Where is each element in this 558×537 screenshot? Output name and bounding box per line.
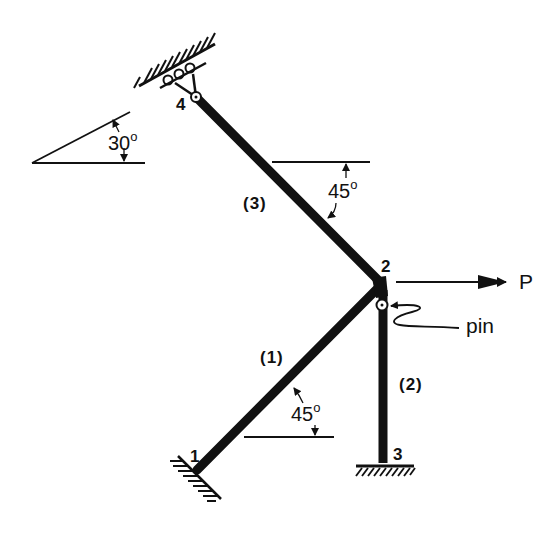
fixed-support-node-3 (356, 466, 415, 476)
node-label-4: 4 (176, 95, 186, 114)
degree-symbol: o (130, 129, 137, 144)
pin-icon (377, 300, 388, 311)
pin-label: pin (466, 314, 494, 337)
roller-support-node-4 (134, 33, 215, 102)
load-label: P (519, 270, 533, 293)
svg-text:30o: 30o (108, 129, 137, 154)
member-1 (197, 286, 380, 470)
angle-value-30: 30 (108, 132, 130, 154)
svg-text:45o: 45o (291, 400, 320, 425)
member-label-1: (1) (260, 348, 284, 367)
member-label-2: (2) (399, 375, 423, 394)
degree-symbol: o (350, 177, 357, 192)
angle-indicator-30: 30o (32, 112, 145, 163)
member-label-3: (3) (243, 194, 267, 213)
angle-value-member-3: 45 (328, 180, 350, 202)
degree-symbol: o (313, 400, 320, 415)
pin-leader-line (391, 305, 459, 328)
node-label-1: 1 (190, 447, 199, 466)
node-label-2: 2 (381, 257, 390, 276)
structural-frame-diagram: pin P (0, 0, 558, 537)
angle-value-member-1: 45 (291, 403, 313, 425)
node-label-3: 3 (393, 445, 402, 464)
svg-text:45o: 45o (328, 177, 357, 202)
